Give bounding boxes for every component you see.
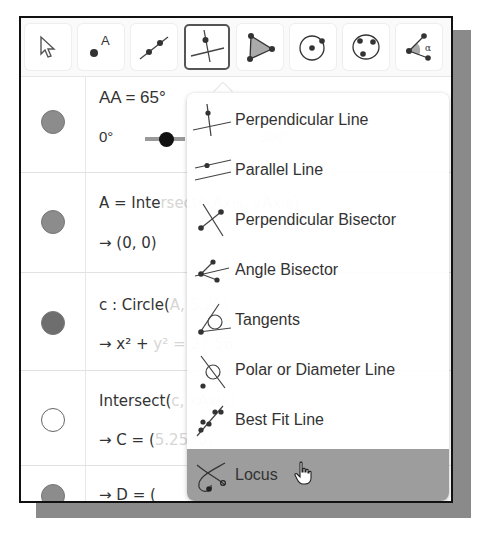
visibility-toggle[interactable] [41, 484, 65, 503]
tool-point[interactable]: A [78, 24, 124, 70]
tool-circle-center[interactable] [290, 24, 336, 70]
point-a-value: → (0, 0) [99, 234, 157, 252]
perpendicular-bisector-icon [189, 200, 233, 240]
point-d-value: → D = ( [99, 486, 156, 503]
tool-angle[interactable]: α [396, 24, 442, 70]
circle-equation: → x² + [99, 335, 149, 353]
line-through-points-icon [136, 29, 172, 65]
menu-item-polar-line[interactable]: Polar or Diameter Line [187, 345, 449, 395]
tool-circle-three-points[interactable] [343, 24, 389, 70]
visibility-toggle[interactable] [41, 110, 65, 134]
tangents-icon [189, 300, 233, 340]
locus-icon [189, 455, 233, 495]
point-a-definition: A = Inte [99, 194, 160, 212]
menu-item-perpendicular-line[interactable]: Perpendicular Line [187, 95, 449, 145]
visibility-toggle[interactable] [41, 311, 65, 335]
perpendicular-line-icon [189, 100, 233, 140]
slider-knob[interactable] [159, 132, 174, 147]
tool-polygon[interactable] [237, 24, 283, 70]
hand-pointer-icon [294, 461, 314, 485]
visibility-toggle[interactable] [41, 210, 65, 234]
polar-line-icon [189, 350, 233, 390]
tool-perpendicular-line[interactable] [184, 24, 230, 70]
menu-item-locus[interactable]: Locus [187, 449, 449, 501]
point-icon: A [83, 29, 119, 65]
menu-item-angle-bisector[interactable]: Angle Bisector [187, 245, 449, 295]
polygon-icon [242, 29, 278, 65]
arrow-cursor-icon [33, 32, 63, 62]
menu-item-parallel-line[interactable]: Parallel Line [187, 145, 449, 195]
circle-three-points-icon [348, 29, 384, 65]
tool-line[interactable] [131, 24, 177, 70]
best-fit-line-icon [189, 400, 233, 440]
tool-move[interactable] [25, 24, 71, 70]
circle-center-icon [295, 29, 331, 65]
perpendicular-line-icon [188, 28, 226, 66]
point-c-value: → C = ( [99, 431, 155, 449]
menu-item-tangents[interactable]: Tangents [187, 295, 449, 345]
geogebra-window: A α AA = 65° 0° 360° [19, 16, 453, 503]
svg-text:A: A [101, 33, 110, 48]
slider-min-label: 0° [99, 128, 113, 145]
toolbar: A α [21, 18, 451, 77]
tool-submenu: Perpendicular Line Parallel Line Perpend… [187, 93, 449, 501]
menu-item-best-fit-line[interactable]: Best Fit Line [187, 395, 449, 445]
svg-text:α: α [425, 43, 431, 53]
menu-item-perpendicular-bisector[interactable]: Perpendicular Bisector [187, 195, 449, 245]
angle-icon: α [401, 29, 437, 65]
angle-bisector-icon [189, 250, 233, 290]
parallel-line-icon [189, 150, 233, 190]
intersect-definition: Intersect( [99, 392, 171, 410]
visibility-toggle[interactable] [41, 408, 65, 432]
slider-definition: AA = 65° [99, 88, 166, 108]
circle-definition: c : Circle( [99, 296, 170, 314]
